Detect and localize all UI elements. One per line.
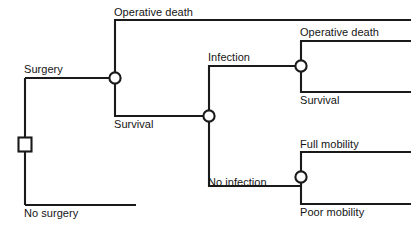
branch-poor-mobility-line bbox=[301, 183, 411, 205]
label-no-infection: No infection bbox=[208, 176, 267, 188]
branch-full-mobility-line bbox=[301, 152, 411, 172]
label-surgery: Surgery bbox=[24, 63, 63, 75]
branch-operative-death-2-line bbox=[301, 41, 411, 61]
label-operative-death-2: Operative death bbox=[300, 26, 379, 38]
label-operative-death-1: Operative death bbox=[114, 6, 193, 18]
label-poor-mobility: Poor mobility bbox=[300, 206, 364, 218]
decision-node-root[interactable] bbox=[19, 138, 32, 152]
label-full-mobility: Full mobility bbox=[300, 138, 359, 150]
decision-tree-diagram: Surgery No surgery Operative death Survi… bbox=[0, 0, 411, 233]
label-survival-1: Survival bbox=[114, 118, 154, 130]
branch-infection-line bbox=[209, 66, 296, 111]
chance-node-2[interactable] bbox=[203, 110, 214, 121]
label-no-surgery: No surgery bbox=[24, 207, 78, 219]
branch-survival-2-line bbox=[301, 72, 411, 93]
branch-survival-1-line bbox=[115, 84, 204, 117]
chance-node-4[interactable] bbox=[295, 171, 306, 182]
chance-node-3[interactable] bbox=[295, 60, 306, 71]
label-survival-2: Survival bbox=[300, 94, 340, 106]
label-infection: Infection bbox=[208, 51, 250, 63]
chance-node-1[interactable] bbox=[109, 72, 120, 83]
